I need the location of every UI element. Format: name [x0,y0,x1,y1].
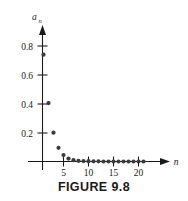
data-point [131,159,135,163]
x-tick-label-10: 10 [84,168,94,176]
y-tick-label-0.4: 0.4 [21,100,33,110]
plot-svg: 0.2 0.4 0.6 0.8 5 10 15 20 a [0,0,188,176]
y-tick-label-0.6: 0.6 [21,71,33,81]
y-axis-label: a [32,12,37,22]
data-point [136,159,140,163]
data-point [46,101,50,105]
y-tick-label-0.2: 0.2 [21,129,33,139]
x-axis-label: n [174,157,179,167]
data-point [121,159,125,163]
data-point [76,159,80,163]
data-point [86,159,90,163]
data-point [106,159,110,163]
data-point [91,159,95,163]
y-axis-arrowhead [39,25,46,35]
scatter-plot: 0.2 0.4 0.6 0.8 5 10 15 20 a [0,0,188,176]
axis-labels: a n n [32,12,179,167]
data-point [141,159,145,163]
data-point [51,131,55,135]
data-point [41,53,45,57]
data-point [66,157,70,161]
data-point [96,159,100,163]
x-tick-labels: 5 10 15 20 [61,168,143,176]
x-tick-label-5: 5 [61,168,66,176]
data-point [111,159,115,163]
data-point [81,159,85,163]
y-tick-labels: 0.2 0.4 0.6 0.8 [21,42,33,139]
figure-caption: FIGURE 9.8 [0,176,188,201]
data-point [71,158,75,162]
data-point [126,159,130,163]
y-axis-label-subscript: n [39,17,42,24]
x-axis-arrowhead [160,158,170,165]
figure-container: 0.2 0.4 0.6 0.8 5 10 15 20 a [0,0,188,201]
data-point [116,159,120,163]
data-point-series [41,53,145,164]
x-tick-label-15: 15 [109,168,119,176]
x-tick-label-20: 20 [134,168,144,176]
data-point [56,146,60,150]
y-axis [39,25,46,170]
data-point [61,153,65,157]
y-tick-label-0.8: 0.8 [21,42,33,52]
data-point [101,159,105,163]
